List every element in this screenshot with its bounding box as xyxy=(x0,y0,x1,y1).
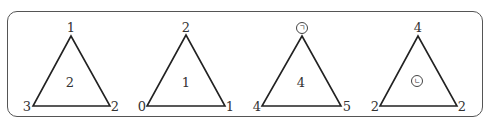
diagram-canvas: 1 2 3 2 2 1 0 1 ㄱ 4 4 5 4 ㄴ 2 2 xyxy=(0,0,492,128)
triangle-2-bottom-right-value: 1 xyxy=(226,100,234,113)
triangle-1-top-value: 1 xyxy=(67,21,75,34)
triangle-3-bottom-right-value: 5 xyxy=(343,100,351,113)
triangle-4-shape xyxy=(380,36,457,106)
triangle-4-center-marker-nieun: ㄴ xyxy=(411,75,423,87)
triangle-2-shape xyxy=(147,35,225,106)
triangle-1-center-value: 2 xyxy=(66,76,74,89)
triangle-3-center-value: 4 xyxy=(297,76,305,89)
triangle-4-bottom-left-value: 2 xyxy=(371,100,379,113)
triangle-2-center-value: 1 xyxy=(182,76,190,89)
triangle-4-bottom-right-value: 2 xyxy=(458,100,466,113)
triangle-1-bottom-left-value: 3 xyxy=(23,100,31,113)
triangle-2-top-value: 2 xyxy=(182,21,190,34)
triangle-3-top-marker-giyeok: ㄱ xyxy=(296,22,308,34)
triangle-3-bottom-left-value: 4 xyxy=(253,100,261,113)
triangle-1-bottom-right-value: 2 xyxy=(111,100,119,113)
triangle-3-shape xyxy=(262,36,341,106)
triangle-4-top-value: 4 xyxy=(414,21,422,34)
triangle-1-shape xyxy=(33,36,110,106)
triangle-2-bottom-left-value: 0 xyxy=(138,100,146,113)
